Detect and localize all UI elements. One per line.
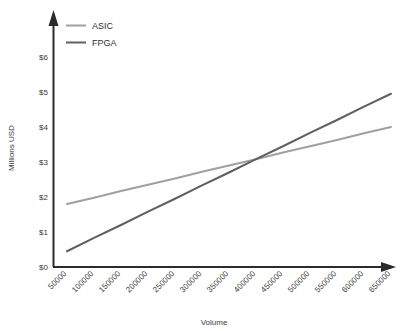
y-tick-label: $4	[39, 123, 48, 132]
y-tick-label: $1	[39, 228, 48, 237]
line-chart: $0 $1 $2 $3 $4 $5 $6 50000 100000 150000…	[0, 0, 408, 331]
y-tick-label: $2	[39, 193, 48, 202]
y-tick-label: $6	[39, 53, 48, 62]
y-tick-label: $5	[39, 88, 48, 97]
y-tick-label: $0	[39, 263, 48, 272]
x-axis-title: Volume	[201, 318, 228, 327]
y-axis-title: Millions USD	[7, 125, 16, 171]
legend-label-fpga: FPGA	[92, 38, 117, 48]
legend-label-asic: ASIC	[92, 21, 114, 31]
y-tick-label: $3	[39, 158, 48, 167]
chart-canvas: $0 $1 $2 $3 $4 $5 $6 50000 100000 150000…	[0, 0, 408, 331]
